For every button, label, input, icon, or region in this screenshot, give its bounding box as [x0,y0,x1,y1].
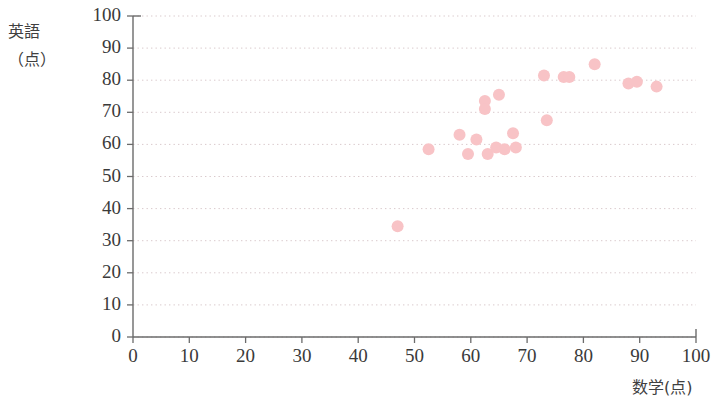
axis-frame [133,16,696,337]
data-points [392,58,663,232]
y-tick-label: 50 [77,165,121,187]
x-tick-label: 10 [167,345,211,367]
data-point [589,58,601,70]
x-tick-label: 90 [618,345,662,367]
x-tick-label: 50 [393,345,437,367]
x-tick-label: 30 [280,345,324,367]
data-point [392,220,404,232]
y-axis-title-line1: 英語 [8,22,40,41]
x-tick-label: 80 [561,345,605,367]
data-point [541,114,553,126]
data-point [470,134,482,146]
gridlines [133,16,696,337]
x-axis-title: 数学(点) [632,374,692,398]
y-tick-label: 70 [77,100,121,122]
y-tick-label: 30 [77,229,121,251]
y-tick-label: 10 [77,293,121,315]
x-tick-label: 40 [336,345,380,367]
x-tick-label: 70 [505,345,549,367]
data-point [507,127,519,139]
x-tick-label: 20 [224,345,268,367]
scatter-chart: 英語 （点） 数学(点) 0102030405060708090100 0102… [0,0,714,404]
data-point [423,143,435,155]
data-point [510,142,522,154]
x-tick-label: 0 [111,345,155,367]
y-axis-title-line2: （点） [8,46,56,74]
data-point [538,69,550,81]
data-point [499,143,511,155]
y-tick-label: 0 [77,325,121,347]
y-tick-label: 90 [77,36,121,58]
y-tick-label: 80 [77,68,121,90]
data-point [479,103,491,115]
plot-svg [133,16,696,337]
y-tick-label: 40 [77,197,121,219]
axis-ticks [127,16,696,343]
data-point [651,81,663,93]
y-tick-label: 20 [77,261,121,283]
y-axis-title: 英語 （点） [8,18,56,74]
x-tick-label: 60 [449,345,493,367]
data-point [493,89,505,101]
x-tick-label: 100 [674,345,714,367]
data-point [462,148,474,160]
data-point [631,76,643,88]
plot-area [133,16,696,337]
data-point [454,129,466,141]
data-point [563,71,575,83]
y-tick-label: 60 [77,132,121,154]
y-tick-label: 100 [77,4,121,26]
